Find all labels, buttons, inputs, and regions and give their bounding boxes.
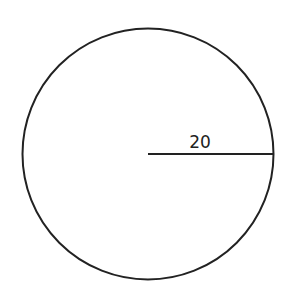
circle-diagram: 20 xyxy=(0,0,285,307)
radius-label: 20 xyxy=(189,132,211,152)
